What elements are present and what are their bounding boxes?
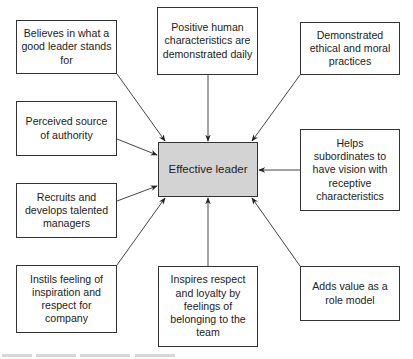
node-source-of-authority: Perceived source of authority (16, 101, 117, 156)
node-recruits-managers: Recruits and develops talented managers (16, 183, 117, 238)
node-believes-in-leader: Believes in what a good leader stands fo… (16, 20, 117, 74)
node-label: Inspires respect and loyalty by feelings… (163, 273, 253, 339)
node-label: Recruits and develops talented managers (21, 191, 112, 231)
arrow-tr-to-center (252, 75, 300, 141)
cropped-caption (0, 354, 413, 359)
node-instils-inspiration: Instils feeling of inspiration and respe… (16, 265, 117, 333)
node-inspires-loyalty: Inspires respect and loyalty by feelings… (158, 266, 258, 347)
center-label: Effective leader (168, 163, 247, 176)
arrow-bl-to-center (117, 198, 165, 265)
node-label: Demonstrated ethical and moral practices (305, 29, 395, 69)
node-helps-subordinates: Helps subordinates to have vision with r… (300, 129, 400, 211)
node-positive-characteristics: Positive human characteristics are demon… (157, 7, 258, 75)
node-label: Positive human characteristics are demon… (162, 21, 253, 61)
node-label: Perceived source of authority (21, 115, 112, 141)
node-role-model: Adds value as a role model (300, 266, 400, 321)
node-label: Helps subordinates to have vision with r… (305, 137, 395, 203)
arrow-tl-to-center (117, 74, 165, 141)
arrow-ml-to-center (117, 139, 157, 155)
node-label: Believes in what a good leader stands fo… (21, 27, 112, 67)
node-ethical-practices: Demonstrated ethical and moral practices (300, 22, 400, 75)
node-label: Adds value as a role model (305, 280, 395, 306)
arrow-l2-to-center (117, 186, 157, 201)
arrow-br-to-center (252, 198, 300, 266)
center-node-effective-leader: Effective leader (158, 142, 258, 197)
node-label: Instils feeling of inspiration and respe… (21, 273, 112, 326)
